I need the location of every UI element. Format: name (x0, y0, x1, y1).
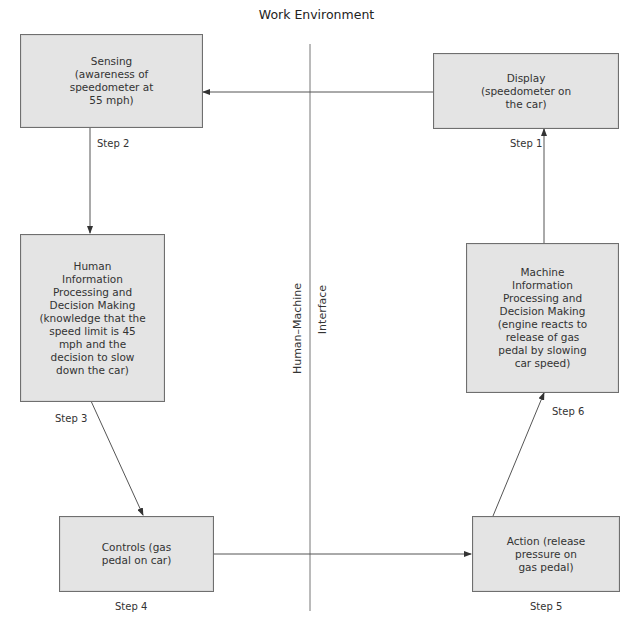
machine-processing-box-label: Machine Information Processing and Decis… (498, 266, 587, 370)
step-5-label: Step 5 (530, 601, 562, 612)
human-machine-interface-diagram: Work Environment Sensing (awareness of s… (0, 0, 633, 630)
arrow-human-to-controls (91, 401, 143, 515)
step-4-label: Step 4 (115, 601, 147, 612)
interface-label-human-machine: Human–Machine (291, 279, 304, 379)
display-box-label: Display (speedometer on the car) (481, 72, 571, 111)
sensing-box: Sensing (awareness of speedometer at 55 … (20, 34, 203, 128)
human-processing-box-label: Human Information Processing and Decisio… (39, 260, 145, 377)
sensing-box-label: Sensing (awareness of speedometer at 55 … (70, 55, 154, 107)
arrow-action-to-machine (493, 393, 544, 516)
display-box: Display (speedometer on the car) (433, 53, 619, 129)
step-6-label: Step 6 (552, 406, 584, 417)
step-2-label: Step 2 (97, 138, 129, 149)
human-processing-box: Human Information Processing and Decisio… (20, 234, 165, 402)
diagram-title: Work Environment (0, 7, 633, 22)
controls-box: Controls (gas pedal on car) (59, 516, 214, 592)
interface-label-interface: Interface (316, 280, 329, 340)
machine-processing-box: Machine Information Processing and Decis… (466, 243, 619, 393)
controls-box-label: Controls (gas pedal on car) (102, 541, 172, 567)
step-1-label: Step 1 (510, 138, 542, 149)
action-box-label: Action (release pressure on gas pedal) (507, 535, 586, 574)
step-3-label: Step 3 (55, 413, 87, 424)
action-box: Action (release pressure on gas pedal) (472, 516, 620, 592)
